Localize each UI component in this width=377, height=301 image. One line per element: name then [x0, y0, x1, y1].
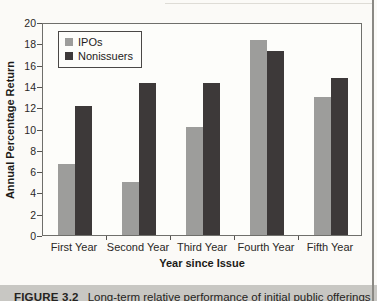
y-tick-mark — [37, 236, 42, 237]
figure-caption-number: FIGURE 3.2 — [14, 291, 79, 301]
page-edge-top-line — [165, 3, 372, 4]
figure-caption-text: Long-term relative performance of initia… — [88, 291, 371, 301]
figure-caption-bar: FIGURE 3.2Long-term relative performance… — [0, 285, 377, 301]
x-category-label: Fourth Year — [229, 241, 303, 253]
y-tick-mark — [37, 66, 42, 67]
bar-nonissuers-third-year — [203, 83, 220, 235]
x-axis-tick-mark — [170, 236, 171, 240]
y-tick-mark — [37, 172, 42, 173]
legend-item: IPOs — [65, 35, 133, 49]
y-tick-label: 20 — [12, 18, 36, 28]
x-axis-tick-mark — [298, 236, 299, 240]
chart-legend: IPOsNonissuers — [58, 31, 142, 68]
y-tick-mark — [37, 44, 42, 45]
x-axis-tick-mark — [106, 236, 107, 240]
x-category-label: First Year — [37, 241, 111, 253]
y-tick-label: 4 — [12, 188, 36, 198]
legend-swatch-nonissuers — [65, 52, 73, 60]
y-tick-mark — [37, 151, 42, 152]
x-category-label: Third Year — [165, 241, 239, 253]
y-tick-label: 6 — [12, 167, 36, 177]
y-tick-mark — [37, 108, 42, 109]
figure-panel: Annual Percentage Return IPOsNonissuers … — [0, 0, 377, 285]
plot-area: IPOsNonissuers — [42, 23, 362, 236]
bar-ipos-fourth-year — [250, 40, 267, 235]
y-tick-label: 12 — [12, 103, 36, 113]
y-tick-mark — [37, 193, 42, 194]
y-tick-label: 18 — [12, 39, 36, 49]
bar-ipos-fifth-year — [314, 97, 331, 235]
bar-nonissuers-fifth-year — [331, 78, 348, 235]
y-tick-label: 16 — [12, 61, 36, 71]
y-tick-label: 8 — [12, 146, 36, 156]
y-tick-mark — [37, 87, 42, 88]
x-axis-title: Year since Issue — [132, 257, 272, 269]
y-tick-mark — [37, 130, 42, 131]
x-category-label: Fifth Year — [293, 241, 367, 253]
y-tick-label: 14 — [12, 82, 36, 92]
figure-caption: FIGURE 3.2Long-term relative performance… — [0, 285, 377, 301]
x-axis-tick-mark — [234, 236, 235, 240]
bar-ipos-second-year — [122, 182, 139, 235]
bar-nonissuers-first-year — [75, 106, 92, 235]
y-tick-label: 10 — [12, 125, 36, 135]
legend-label: Nonissuers — [78, 50, 133, 62]
bar-ipos-first-year — [58, 164, 75, 235]
legend-item: Nonissuers — [65, 49, 133, 63]
bar-nonissuers-second-year — [139, 83, 156, 235]
bar-nonissuers-fourth-year — [267, 51, 284, 235]
bar-ipos-third-year — [186, 127, 203, 235]
y-tick-label: 0 — [12, 231, 36, 241]
y-tick-label: 2 — [12, 210, 36, 220]
x-category-label: Second Year — [101, 241, 175, 253]
y-tick-mark — [37, 23, 42, 24]
y-tick-mark — [37, 215, 42, 216]
legend-swatch-ipos — [65, 38, 73, 46]
legend-label: IPOs — [78, 36, 102, 48]
page-edge-right-line — [372, 0, 374, 301]
